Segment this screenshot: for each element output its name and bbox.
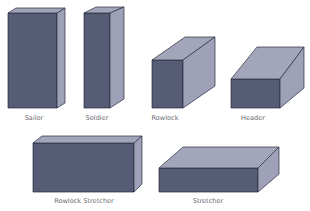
brick-header: Header: [231, 47, 304, 122]
brick-side-face: [134, 136, 142, 192]
brick-label: Rowlock Stretcher: [54, 197, 114, 205]
brick-front-face: [159, 168, 258, 192]
brick-label: Stretcher: [193, 197, 224, 205]
brick-label: Sailor: [25, 114, 44, 122]
brick-front-face: [33, 143, 134, 192]
brick-side-face: [57, 8, 65, 108]
brick-rowlock: Rowlock: [151, 37, 215, 122]
brick-sailor: Sailor: [8, 8, 65, 122]
brick-side-face: [110, 7, 124, 108]
brick-top-face: [8, 8, 65, 13]
brick-label: Rowlock: [151, 114, 178, 122]
brick-rowlock-stretcher: Rowlock Stretcher: [33, 136, 142, 205]
brick-label: Soldier: [86, 114, 109, 122]
brick-positions-diagram: SailorSoldierRowlockHeaderRowlock Stretc…: [0, 0, 310, 211]
brick-soldier: Soldier: [84, 7, 124, 122]
brick-front-face: [231, 79, 280, 108]
brick-stretcher: Stretcher: [159, 147, 279, 205]
brick-front-face: [84, 13, 110, 108]
brick-label: Header: [241, 114, 265, 122]
brick-front-face: [152, 60, 183, 108]
brick-top-face: [33, 136, 142, 143]
brick-front-face: [8, 13, 57, 108]
